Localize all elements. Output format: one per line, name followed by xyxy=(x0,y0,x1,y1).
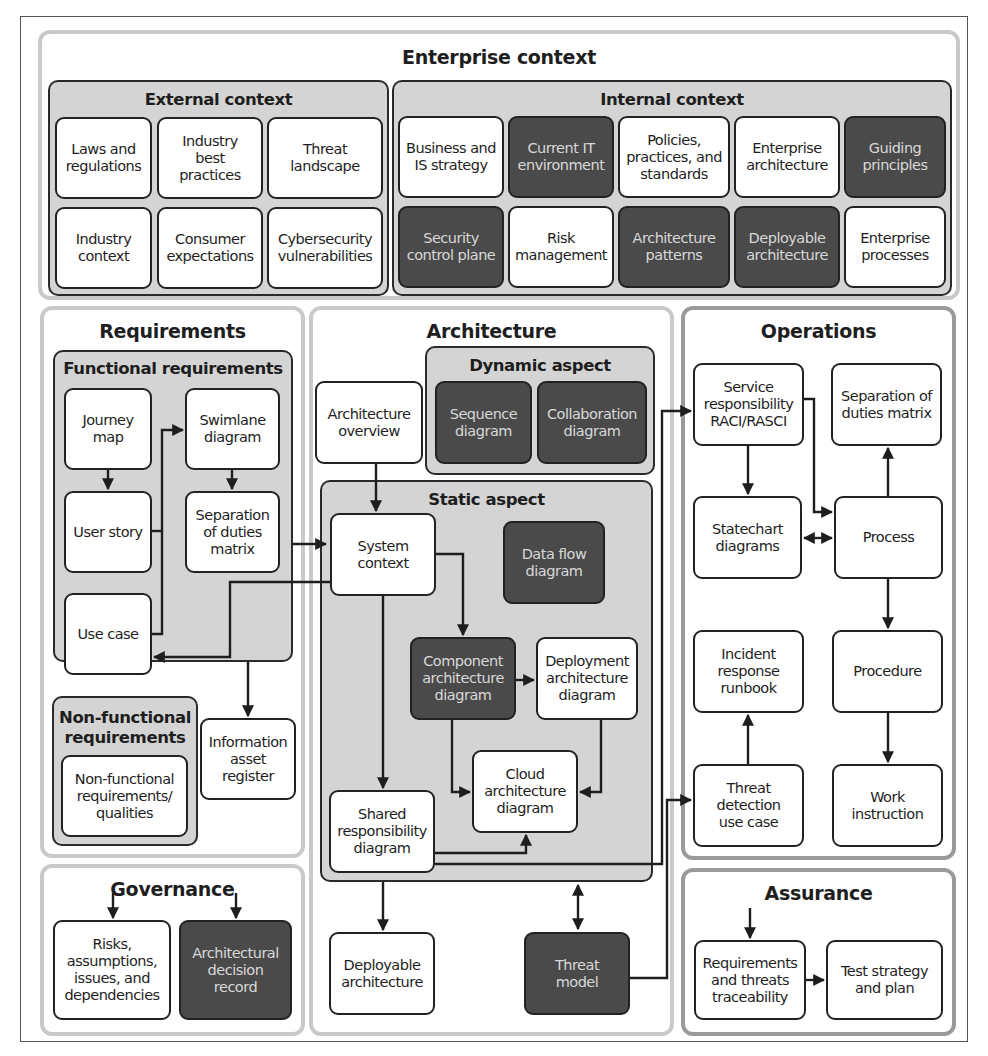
internal-context-title: Internal context xyxy=(394,90,950,110)
architecture-overview-box[interactable]: Architecture overview xyxy=(315,381,423,464)
data-flow-diagram-box[interactable]: Data flow diagram xyxy=(503,521,605,604)
deployable-architecture-context-box[interactable]: Deployable architecture xyxy=(734,206,840,288)
threat-model-box[interactable]: Threat model xyxy=(524,932,630,1015)
cybersecurity-vulnerabilities-box[interactable]: Cybersecurity vulnerabilities xyxy=(267,207,383,289)
laws-and-regulations-box[interactable]: Laws and regulations xyxy=(55,117,152,199)
statechart-diagrams-box[interactable]: Statechart diagrams xyxy=(693,496,802,579)
governance-title: Governance xyxy=(44,878,301,900)
collaboration-diagram-box[interactable]: Collaboration diagram xyxy=(537,381,647,464)
industry-context-box[interactable]: Industry context xyxy=(55,207,152,289)
requirements-title: Requirements xyxy=(44,320,301,342)
incident-response-runbook-box[interactable]: Incident response runbook xyxy=(693,630,804,713)
static-aspect-title: Static aspect xyxy=(322,490,651,510)
deployment-architecture-diagram-box[interactable]: Deployment architecture diagram xyxy=(536,637,638,720)
service-responsibility-raci-box[interactable]: Service responsibility RACI/RASCI xyxy=(693,363,804,446)
system-context-box[interactable]: System context xyxy=(330,513,436,596)
current-it-environment-box[interactable]: Current IT environment xyxy=(508,116,614,198)
policies-practices-standards-box[interactable]: Policies, practices, and standards xyxy=(618,116,730,198)
non-functional-qualities-box[interactable]: Non-functional requirements/ qualities xyxy=(61,755,188,837)
architectural-decision-record-box[interactable]: Architectural decision record xyxy=(179,920,292,1020)
external-context-title: External context xyxy=(50,90,387,110)
journey-map-box[interactable]: Journey map xyxy=(64,388,152,470)
architecture-title: Architecture xyxy=(313,320,670,342)
separation-of-duties-matrix-req-box[interactable]: Separation of duties matrix xyxy=(185,491,280,573)
enterprise-processes-box[interactable]: Enterprise processes xyxy=(844,206,946,288)
sequence-diagram-box[interactable]: Sequence diagram xyxy=(435,381,532,464)
component-architecture-diagram-box[interactable]: Component architecture diagram xyxy=(410,637,516,720)
test-strategy-plan-box[interactable]: Test strategy and plan xyxy=(826,940,943,1020)
process-box[interactable]: Process xyxy=(834,496,943,579)
raid-box[interactable]: Risks, assumptions, issues, and dependen… xyxy=(53,920,171,1020)
industry-best-practices-box[interactable]: Industry best practices xyxy=(157,117,263,199)
user-story-box[interactable]: User story xyxy=(64,491,152,573)
non-functional-requirements-title: Non-functional requirements xyxy=(54,708,196,748)
use-case-box[interactable]: Use case xyxy=(64,593,152,675)
threat-detection-use-case-box[interactable]: Threat detection use case xyxy=(693,764,804,847)
information-asset-register-box[interactable]: Information asset register xyxy=(200,718,296,800)
procedure-box[interactable]: Procedure xyxy=(832,630,943,713)
separation-of-duties-matrix-ops-box[interactable]: Separation of duties matrix xyxy=(831,363,942,446)
security-control-plane-box[interactable]: Security control plane xyxy=(398,206,504,288)
swimlane-diagram-box[interactable]: Swimlane diagram xyxy=(185,388,280,470)
risk-management-box[interactable]: Risk management xyxy=(508,206,614,288)
assurance-title: Assurance xyxy=(685,882,952,904)
dynamic-aspect-title: Dynamic aspect xyxy=(427,356,653,376)
consumer-expectations-box[interactable]: Consumer expectations xyxy=(157,207,263,289)
cloud-architecture-diagram-box[interactable]: Cloud architecture diagram xyxy=(472,750,578,833)
enterprise-architecture-box[interactable]: Enterprise architecture xyxy=(734,116,840,198)
enterprise-context-title: Enterprise context xyxy=(42,46,956,68)
shared-responsibility-diagram-box[interactable]: Shared responsibility diagram xyxy=(329,790,435,873)
operations-title: Operations xyxy=(685,320,952,342)
threat-landscape-box[interactable]: Threat landscape xyxy=(267,117,383,199)
architecture-patterns-box[interactable]: Architecture patterns xyxy=(618,206,730,288)
business-is-strategy-box[interactable]: Business and IS strategy xyxy=(398,116,504,198)
deployable-architecture-box[interactable]: Deployable architecture xyxy=(329,932,435,1015)
functional-requirements-title: Functional requirements xyxy=(55,359,291,379)
work-instruction-box[interactable]: Work instruction xyxy=(832,764,943,847)
requirements-threats-traceability-box[interactable]: Requirements and threats traceability xyxy=(694,940,806,1020)
guiding-principles-box[interactable]: Guiding principles xyxy=(844,116,946,198)
